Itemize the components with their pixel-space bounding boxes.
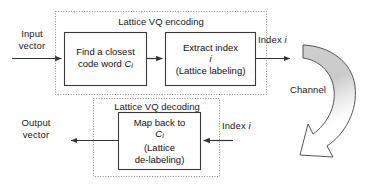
map-back-line1: Map back to xyxy=(134,117,186,129)
map-back-line3: (Lattice xyxy=(144,142,175,154)
output-vector-label: Output vector xyxy=(8,117,64,140)
extract-index-label: Extract index i (Lattice labeling) xyxy=(165,32,256,86)
index-top-label: Index i xyxy=(258,34,320,46)
find-closest-line1: Find a closest xyxy=(76,46,135,58)
find-closest-code-word-label: Find a closest code word Ci xyxy=(64,32,147,86)
find-closest-line2: code word Ci xyxy=(78,58,133,72)
lattice-vq-diagram: Lattice VQ encoding Lattice VQ decoding … xyxy=(0,0,377,189)
channel-arrow-shape xyxy=(300,45,355,157)
map-back-label: Map back to Ci (Lattice de-labeling) xyxy=(118,112,201,170)
map-back-line4: de-labeling) xyxy=(135,154,185,166)
map-back-var: Ci xyxy=(155,128,164,142)
encoding-group-title: Lattice VQ encoding xyxy=(95,16,227,27)
index-bottom-label: Index i xyxy=(222,120,284,132)
extract-index-var: i xyxy=(209,53,211,65)
decoding-group-title: Lattice VQ decoding xyxy=(96,101,218,112)
extract-index-line3: (Lattice labeling) xyxy=(176,65,246,77)
extract-index-line1: Extract index xyxy=(183,42,238,54)
input-vector-label: Input vector xyxy=(6,28,58,51)
channel-label: Channel xyxy=(281,84,335,96)
